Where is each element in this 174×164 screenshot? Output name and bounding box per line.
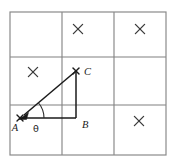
- point-label-C: C: [84, 66, 92, 77]
- figure-container: A B C θ: [0, 0, 174, 164]
- cross-bottom-right: [134, 116, 143, 125]
- cross-middle-left: [28, 67, 37, 76]
- angle-label-theta: θ: [33, 123, 39, 134]
- triangle-side-hypotenuse-AC: [24, 71, 76, 115]
- point-label-A: A: [11, 122, 19, 133]
- geometry-diagram: A B C θ: [0, 0, 174, 164]
- point-label-B: B: [82, 119, 89, 130]
- cross-top-right: [135, 24, 144, 33]
- cross-top-middle: [73, 24, 82, 33]
